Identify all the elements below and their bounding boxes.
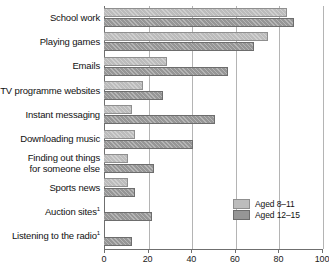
bar-0-4 — [104, 105, 132, 114]
bar-hatch-texture — [104, 155, 127, 162]
bar-hatch-texture — [104, 141, 192, 148]
bar-1-0 — [104, 18, 294, 27]
footnote-marker: 1 — [97, 206, 100, 212]
legend-label-1: Aged 12–15 — [255, 210, 300, 220]
bar-hatch-texture — [104, 92, 162, 99]
bar-0-0 — [104, 8, 287, 17]
category-label-4: Instant messaging — [0, 109, 100, 120]
bar-1-7 — [104, 188, 135, 197]
x-tick-label-60: 60 — [230, 254, 240, 264]
bar-0-7 — [104, 178, 128, 187]
x-tick-60 — [235, 249, 236, 253]
bar-0-6 — [104, 154, 128, 163]
bar-0-1 — [104, 32, 268, 41]
legend-item-0: Aged 8–11 — [233, 198, 319, 209]
gridline-100 — [323, 6, 324, 249]
bar-hatch-texture — [104, 213, 151, 220]
x-tick-0 — [104, 249, 105, 253]
x-axis-line — [104, 249, 323, 250]
bar-hatch-texture — [104, 189, 134, 196]
x-tick-100 — [322, 249, 323, 253]
category-label-3: TV programme websites — [0, 85, 100, 96]
bar-hatch-texture — [104, 238, 131, 245]
bar-1-3 — [104, 91, 163, 100]
bar-1-6 — [104, 164, 154, 173]
bar-1-5 — [104, 140, 193, 149]
bar-0-2 — [104, 57, 167, 66]
bar-1-9 — [104, 237, 132, 246]
x-tick-40 — [191, 249, 192, 253]
category-labels: School workPlaying gamesEmailsTV program… — [0, 0, 100, 270]
footnote-marker: 1 — [97, 230, 100, 236]
bar-1-1 — [104, 42, 254, 51]
bar-1-8 — [104, 212, 152, 221]
legend-item-1: Aged 12–15 — [233, 209, 319, 220]
bar-hatch-texture — [104, 19, 293, 26]
category-label-0: School work — [0, 12, 100, 23]
x-tick-label-0: 0 — [102, 254, 107, 264]
bar-0-3 — [104, 81, 143, 90]
bar-1-2 — [104, 67, 228, 76]
x-tick-20 — [148, 249, 149, 253]
bar-hatch-texture — [104, 9, 286, 16]
bar-hatch-texture — [104, 82, 142, 89]
bar-0-5 — [104, 130, 135, 139]
x-tick-80 — [278, 249, 279, 253]
category-label-1: Playing games — [0, 36, 100, 47]
category-label-8: Auction sites1 — [0, 206, 100, 217]
x-tick-label-40: 40 — [186, 254, 196, 264]
legend-swatch-0 — [233, 199, 250, 209]
category-label-9: Listening to the radio1 — [0, 230, 100, 241]
legend: Aged 8–11Aged 12–15 — [233, 198, 319, 220]
category-label-6: Finding out things for someone else — [0, 152, 100, 174]
x-tick-label-80: 80 — [274, 254, 284, 264]
x-tick-label-100: 100 — [315, 254, 329, 264]
bar-hatch-texture — [104, 131, 134, 138]
bar-hatch-texture — [104, 179, 127, 186]
legend-swatch-1 — [233, 210, 250, 220]
bar-hatch-texture — [104, 33, 267, 40]
bar-hatch-texture — [104, 116, 214, 123]
bar-hatch-texture — [104, 68, 227, 75]
category-label-7: Sports news — [0, 182, 100, 193]
bar-hatch-texture — [104, 165, 153, 172]
bar-hatch-texture — [104, 106, 131, 113]
bar-1-4 — [104, 115, 215, 124]
category-label-2: Emails — [0, 60, 100, 71]
bar-hatch-texture — [104, 58, 166, 65]
x-tick-label-20: 20 — [143, 254, 153, 264]
category-label-5: Downloading music — [0, 133, 100, 144]
bar-hatch-texture — [104, 43, 253, 50]
legend-label-0: Aged 8–11 — [255, 199, 295, 209]
